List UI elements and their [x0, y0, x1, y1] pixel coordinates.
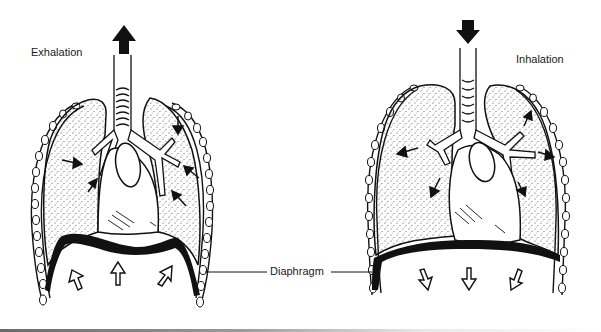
- airflow-down-arrow-icon: [456, 20, 480, 44]
- diaphragm-label: Diaphragm: [270, 265, 324, 277]
- exhalation-label: Exhalation: [31, 46, 82, 58]
- respiration-diagram: [0, 0, 601, 332]
- inhalation-label: Inhalation: [516, 53, 564, 65]
- diaphragm-up-arrows-icon: [69, 262, 172, 290]
- exhalation-panel: [31, 25, 213, 307]
- diaphragm-down-arrows-icon: [419, 268, 522, 290]
- trachea: [114, 55, 131, 130]
- airflow-up-arrow-icon: [112, 25, 136, 54]
- trachea: [460, 48, 476, 130]
- diaphragm-exhaled: [45, 234, 200, 296]
